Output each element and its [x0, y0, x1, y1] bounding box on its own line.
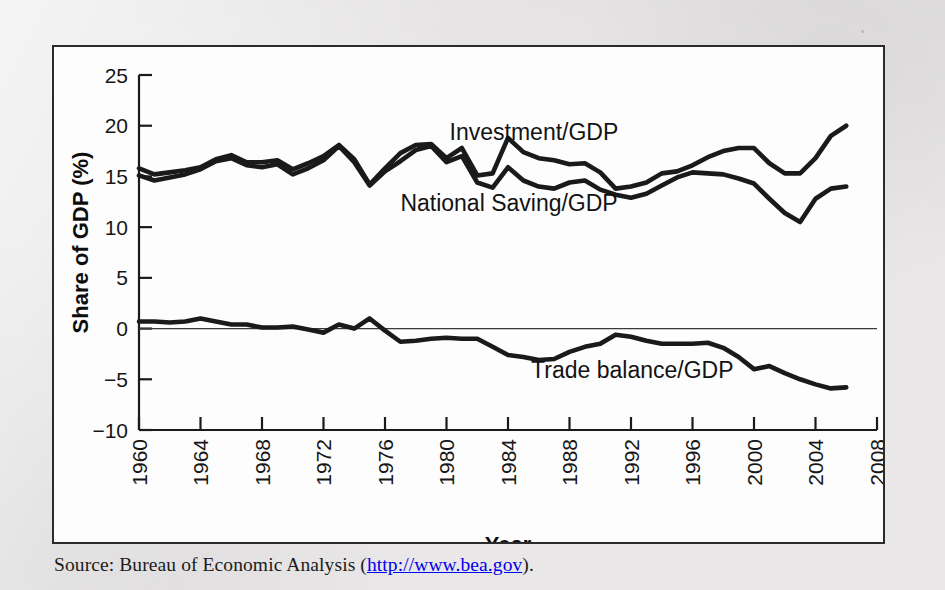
source-suffix: ). — [522, 554, 534, 575]
x-axis-tick-label: 1980 — [435, 439, 458, 486]
x-axis-tick-label: 2008 — [866, 439, 884, 486]
series-annotation-3: Trade balance/GDP — [531, 357, 733, 383]
x-axis-tick-label: 2000 — [743, 439, 766, 486]
y-axis-tick-label: 20 — [105, 114, 128, 137]
source-caption: Source: Bureau of Economic Analysis (htt… — [54, 554, 534, 576]
x-axis-tick-label: 1964 — [189, 439, 212, 486]
x-axis-title: Year — [485, 532, 532, 542]
chart-canvas: −10−505101520251960196419681972197619801… — [54, 47, 883, 542]
x-axis-tick-label: 1968 — [251, 439, 274, 486]
x-axis-tick-label: 1992 — [620, 439, 643, 486]
y-axis-tick-label: 0 — [116, 317, 128, 340]
x-axis-tick-label: 1972 — [312, 439, 335, 486]
y-axis-title: Share of GDP (%) — [68, 152, 93, 334]
x-axis-tick-label: 1996 — [681, 439, 704, 486]
source-prefix: Source: Bureau of Economic Analysis ( — [54, 554, 367, 575]
series-annotation-2: National Saving/GDP — [400, 190, 617, 216]
x-axis-tick-label: 1988 — [558, 439, 581, 486]
y-axis-tick-label: 15 — [105, 165, 128, 188]
source-url-link[interactable]: http://www.bea.gov — [367, 554, 522, 575]
y-axis-tick-label: 10 — [105, 216, 128, 239]
y-axis-tick-label: 5 — [116, 266, 128, 289]
scan-speck — [861, 30, 864, 33]
figure-frame: −10−505101520251960196419681972197619801… — [52, 45, 885, 544]
y-axis-tick-label: −10 — [92, 419, 128, 442]
x-axis-tick-label: 1976 — [374, 439, 397, 486]
series-annotation-1: Investment/GDP — [450, 119, 619, 145]
y-axis-tick-label: −5 — [104, 368, 128, 391]
x-axis-tick-label: 1960 — [128, 439, 151, 486]
x-axis-tick-label: 1984 — [497, 439, 520, 486]
x-axis-tick-label: 2004 — [804, 439, 827, 486]
y-axis-tick-label: 25 — [105, 64, 128, 87]
